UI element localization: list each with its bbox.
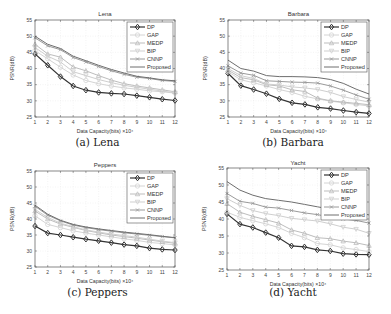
svg-text:MEDP: MEDP bbox=[147, 40, 163, 46]
y-tick-label: 40 bbox=[26, 65, 32, 71]
svg-text:CNNP: CNNP bbox=[341, 56, 357, 62]
svg-text:CNNP: CNNP bbox=[147, 56, 163, 62]
y-tick-label: 40 bbox=[218, 216, 224, 222]
x-tick-label: 9 bbox=[329, 272, 332, 278]
chart-panel-barbara: 12345678910111225303540455055BarbaraData… bbox=[195, 0, 391, 157]
x-tick-label: 2 bbox=[46, 269, 49, 275]
x-tick-label: 12 bbox=[172, 269, 178, 275]
x-tick-label: 2 bbox=[46, 119, 49, 125]
y-axis-label: PSNR(dB) bbox=[201, 207, 207, 231]
yacht-chart: 12345678910111225303540455055YachtData C… bbox=[195, 157, 391, 287]
x-axis-label: Data Capacity(bits) ×10⁴ bbox=[270, 128, 327, 134]
y-tick-label: 25 bbox=[26, 264, 32, 270]
y-tick-label: 50 bbox=[219, 33, 225, 39]
y-tick-label: 45 bbox=[26, 200, 32, 206]
x-tick-label: 1 bbox=[227, 119, 230, 125]
y-tick-label: 30 bbox=[219, 98, 225, 104]
svg-text:BIP: BIP bbox=[341, 196, 350, 202]
x-tick-label: 2 bbox=[239, 272, 242, 278]
svg-text:DP: DP bbox=[341, 172, 349, 178]
chart-title: Lena bbox=[98, 11, 112, 17]
x-tick-label: 1 bbox=[34, 119, 37, 125]
x-tick-label: 8 bbox=[123, 119, 126, 125]
x-tick-label: 4 bbox=[265, 119, 268, 125]
svg-text:Proposed: Proposed bbox=[341, 64, 365, 70]
y-axis-label: PSNR(dB) bbox=[202, 56, 208, 80]
y-tick-label: 30 bbox=[26, 98, 32, 104]
x-tick-label: 6 bbox=[291, 119, 294, 125]
caption-barbara: (b) Barbara bbox=[195, 136, 391, 148]
y-tick-label: 50 bbox=[26, 184, 32, 190]
legend: DPGAPMEDPBIPCNNPProposed bbox=[321, 22, 367, 72]
y-tick-label: 45 bbox=[26, 49, 32, 55]
svg-text:BIP: BIP bbox=[147, 48, 156, 54]
svg-text:MEDP: MEDP bbox=[341, 188, 357, 194]
svg-text:DP: DP bbox=[147, 175, 155, 181]
x-tick-label: 4 bbox=[72, 269, 75, 275]
svg-text:DP: DP bbox=[147, 24, 155, 30]
y-tick-label: 50 bbox=[26, 33, 32, 39]
y-tick-label: 45 bbox=[219, 49, 225, 55]
x-tick-label: 11 bbox=[160, 119, 165, 125]
x-tick-label: 9 bbox=[135, 119, 138, 125]
x-tick-label: 7 bbox=[303, 272, 306, 278]
x-tick-label: 1 bbox=[34, 269, 37, 275]
legend: DPGAPMEDPBIPCNNPProposed bbox=[127, 173, 173, 223]
y-tick-label: 55 bbox=[219, 17, 225, 23]
barbara-chart: 12345678910111225303540455055BarbaraData… bbox=[195, 0, 391, 137]
y-tick-label: 35 bbox=[219, 81, 225, 87]
x-tick-label: 8 bbox=[316, 119, 319, 125]
y-tick-label: 35 bbox=[26, 81, 32, 87]
x-tick-label: 5 bbox=[278, 119, 281, 125]
y-tick-label: 55 bbox=[218, 165, 224, 171]
x-tick-label: 9 bbox=[329, 119, 332, 125]
svg-text:GAP: GAP bbox=[341, 180, 353, 186]
svg-text:CNNP: CNNP bbox=[341, 204, 357, 210]
chart-panel-yacht: 12345678910111225303540455055YachtData C… bbox=[195, 157, 391, 314]
y-tick-label: 30 bbox=[26, 248, 32, 254]
x-tick-label: 4 bbox=[72, 119, 75, 125]
x-axis-label: Data Capacity(bits) ×10⁴ bbox=[77, 278, 134, 284]
x-tick-label: 5 bbox=[85, 119, 88, 125]
x-tick-label: 11 bbox=[353, 272, 358, 278]
x-tick-label: 10 bbox=[147, 269, 153, 275]
y-tick-label: 55 bbox=[26, 168, 32, 174]
y-tick-label: 25 bbox=[218, 267, 224, 273]
y-tick-label: 50 bbox=[218, 182, 224, 188]
chart-panel-lena: 12345678910111225303540455055LenaData Ca… bbox=[0, 0, 195, 157]
x-tick-label: 1 bbox=[226, 272, 229, 278]
x-tick-label: 7 bbox=[304, 119, 307, 125]
svg-text:GAP: GAP bbox=[341, 32, 353, 38]
svg-text:Proposed: Proposed bbox=[341, 212, 365, 218]
y-axis-label: PSNR(dB) bbox=[9, 207, 15, 231]
x-tick-label: 2 bbox=[239, 119, 242, 125]
legend: DPGAPMEDPBIPCNNPProposed bbox=[321, 170, 367, 220]
y-tick-label: 35 bbox=[26, 232, 32, 238]
svg-text:DP: DP bbox=[341, 24, 349, 30]
peppers-chart: 12345678910111225303540455055PeppersData… bbox=[0, 157, 195, 287]
x-tick-label: 6 bbox=[97, 269, 100, 275]
x-tick-label: 3 bbox=[252, 119, 255, 125]
y-tick-label: 45 bbox=[218, 199, 224, 205]
svg-text:GAP: GAP bbox=[147, 183, 159, 189]
caption-yacht: (d) Yacht bbox=[195, 286, 391, 298]
x-tick-label: 7 bbox=[110, 119, 113, 125]
chart-panel-peppers: 12345678910111225303540455055PeppersData… bbox=[0, 157, 195, 314]
x-tick-label: 11 bbox=[354, 119, 359, 125]
svg-text:Proposed: Proposed bbox=[147, 64, 171, 70]
lena-chart: 12345678910111225303540455055LenaData Ca… bbox=[0, 0, 195, 137]
chart-title: Peppers bbox=[94, 162, 116, 168]
chart-title: Barbara bbox=[288, 11, 310, 17]
y-tick-label: 40 bbox=[26, 216, 32, 222]
caption-lena: (a) Lena bbox=[0, 136, 195, 148]
svg-text:CNNP: CNNP bbox=[147, 207, 163, 213]
x-tick-label: 6 bbox=[97, 119, 100, 125]
y-tick-label: 25 bbox=[26, 114, 32, 120]
svg-text:MEDP: MEDP bbox=[147, 191, 163, 197]
caption-peppers: (c) Peppers bbox=[0, 286, 195, 298]
y-tick-label: 25 bbox=[219, 114, 225, 120]
y-tick-label: 55 bbox=[26, 17, 32, 23]
x-tick-label: 10 bbox=[341, 119, 347, 125]
x-tick-label: 6 bbox=[290, 272, 293, 278]
x-tick-label: 12 bbox=[172, 119, 178, 125]
